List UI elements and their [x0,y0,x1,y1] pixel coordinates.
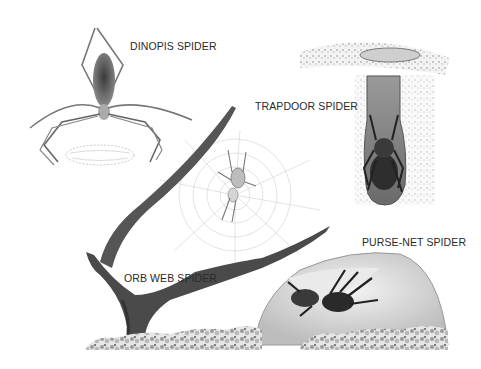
label-dinopis-spider: DINOPIS SPIDER [130,41,217,52]
label-orb-web-spider: ORB WEB SPIDER [124,273,217,284]
illustration-artwork [0,0,481,369]
spider-illustration: DINOPIS SPIDER TRAPDOOR SPIDER ORB WEB S… [0,0,481,369]
trapdoor-spider [300,42,450,205]
label-purse-net-spider: PURSE-NET SPIDER [362,237,466,248]
label-trapdoor-spider: TRAPDOOR SPIDER [255,101,358,112]
